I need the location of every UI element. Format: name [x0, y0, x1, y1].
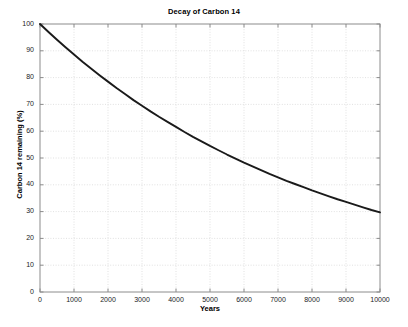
x-tick-label: 10000 [360, 296, 400, 303]
grid-lines [40, 24, 380, 292]
y-tick-label: 100 [2, 20, 34, 27]
y-tick-label: 0 [2, 288, 34, 295]
y-tick-label: 90 [2, 46, 34, 53]
y-tick-label: 20 [2, 234, 34, 241]
y-tick-label: 10 [2, 261, 34, 268]
y-axis-label: Carbon 14 remaining (%) [15, 75, 24, 235]
plot-area [0, 0, 408, 327]
x-axis-label: Years [40, 304, 380, 313]
figure-canvas: Decay of Carbon 14 010203040506070809010… [0, 0, 408, 327]
